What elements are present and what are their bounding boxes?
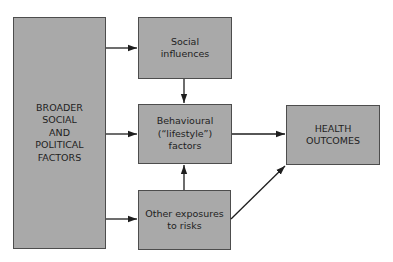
edges-layer	[0, 0, 393, 262]
edge-other-to-health	[231, 166, 285, 219]
